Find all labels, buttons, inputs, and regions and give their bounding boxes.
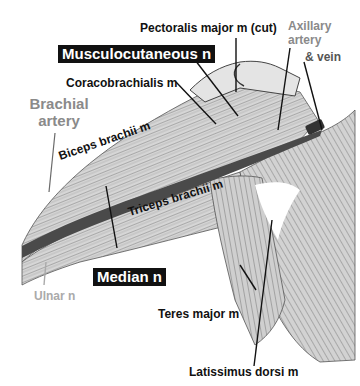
label-median-nerve: Median n	[93, 268, 166, 286]
label-brachial-artery: Brachial artery	[28, 96, 90, 128]
label-teres-major: Teres major m	[158, 308, 239, 320]
label-musculocutaneous-nerve: Musculocutaneous n	[58, 45, 215, 63]
label-latissimus-dorsi: Latissimus dorsi m	[189, 366, 298, 378]
label-brachial-artery-line1: Brachial	[28, 96, 90, 111]
label-brachial-artery-line2: artery	[28, 113, 90, 128]
anatomy-figure: Pectoralis major m (cut) Musculocutaneou…	[0, 0, 360, 386]
label-axillary-line3: & vein	[305, 51, 341, 63]
label-coracobrachialis: Coracobrachialis m	[66, 77, 177, 89]
label-axillary-line2: artery	[288, 34, 331, 46]
label-ulnar-nerve: Ulnar n	[34, 290, 75, 302]
label-axillary: Axillary artery	[288, 20, 331, 46]
label-pectoralis-major: Pectoralis major m (cut)	[140, 22, 277, 34]
label-axillary-line1: Axillary	[288, 20, 331, 32]
